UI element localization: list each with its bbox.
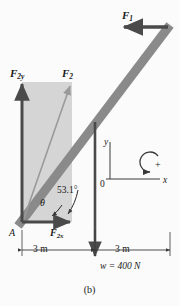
angle-value-label: 53.1° [57, 186, 77, 196]
pivot-point-label: A [9, 228, 15, 238]
force-2y-label: F2y [10, 68, 24, 81]
y-axis-label: y [104, 138, 108, 148]
weight-label: w = 400 N [100, 262, 140, 272]
theta-angle-label: θ [40, 198, 45, 208]
figure-caption: (b) [0, 285, 179, 295]
force-1-label: F1 [122, 10, 133, 23]
dimension-left-label: 3 m [33, 245, 48, 255]
force-2x-label: F2x [50, 228, 63, 240]
dimension-right-label: 3 m [115, 245, 130, 255]
rotation-sign-label: + [155, 160, 161, 170]
force-2-label: F2 [62, 68, 73, 81]
diagram-canvas [0, 0, 179, 306]
free-body-diagram-figure: F1 F2y F2 F2x θ 53.1° A 3 m 3 m w = 400 … [0, 0, 179, 306]
x-axis-label: x [163, 176, 167, 186]
origin-label: 0 [100, 180, 105, 190]
